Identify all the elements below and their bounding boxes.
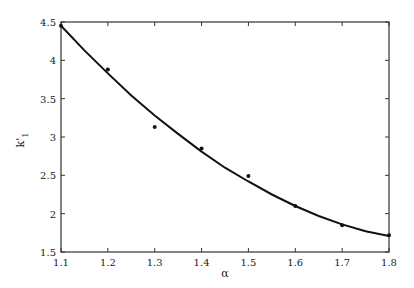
y-axis-label: k'1: [14, 133, 30, 148]
x-tick-label: 1.2: [100, 257, 116, 268]
x-tick-label: 1.1: [53, 257, 69, 268]
plot-frame: [61, 22, 389, 252]
x-tick-label: 1.7: [334, 257, 350, 268]
data-points: [59, 24, 391, 237]
x-axis-label: α: [221, 267, 229, 280]
y-tick-label: 4: [50, 55, 56, 66]
x-tick-label: 1.4: [194, 257, 210, 268]
x-tick-label: 1.6: [287, 257, 303, 268]
data-point: [340, 223, 344, 227]
data-point: [153, 125, 157, 129]
data-point: [200, 147, 204, 151]
data-point: [59, 24, 63, 28]
y-tick-label: 2.5: [40, 170, 56, 181]
data-point: [106, 68, 110, 72]
x-axis-ticks: 1.11.21.31.41.51.61.71.8: [53, 22, 397, 268]
y-tick-label: 3: [50, 132, 56, 143]
x-tick-label: 1.8: [381, 257, 397, 268]
y-tick-label: 4.5: [40, 17, 56, 28]
data-point: [293, 204, 297, 208]
x-tick-label: 1.5: [240, 257, 256, 268]
chart: 1.522.533.544.5 1.11.21.31.41.51.61.71.8…: [0, 0, 414, 288]
fitted-curve: [61, 26, 389, 236]
y-tick-label: 3.5: [40, 94, 56, 105]
data-point: [387, 233, 391, 237]
y-tick-label: 2: [50, 209, 56, 220]
x-tick-label: 1.3: [147, 257, 163, 268]
data-point: [246, 174, 250, 178]
